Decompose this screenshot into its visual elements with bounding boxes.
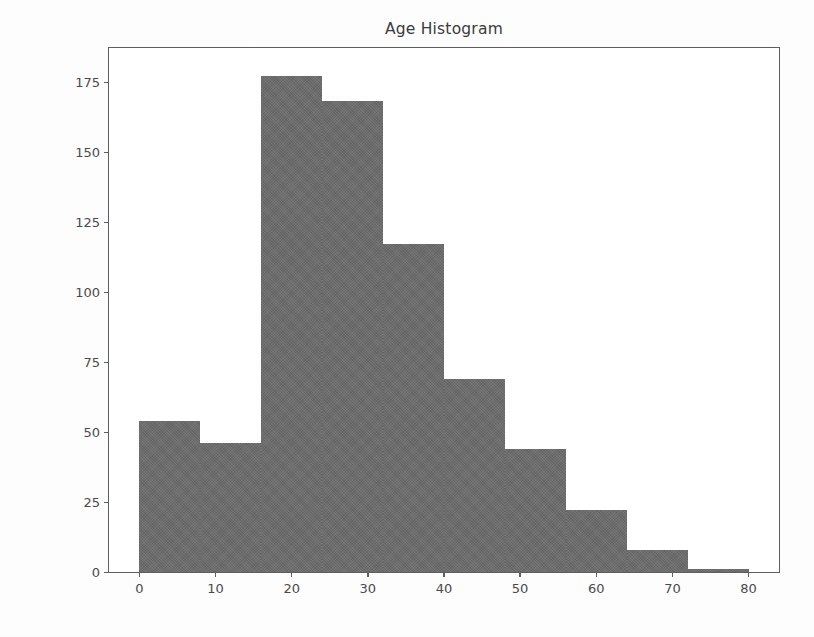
histogram-bar bbox=[444, 379, 505, 572]
y-tick-label: 50 bbox=[83, 424, 100, 439]
histogram-bar bbox=[200, 443, 261, 572]
figure-canvas: Age Histogram 0255075100125150175 010203… bbox=[0, 0, 814, 637]
x-tick-mark bbox=[215, 572, 216, 577]
histogram-bar bbox=[627, 550, 688, 572]
y-tick-label: 125 bbox=[75, 214, 100, 229]
x-tick-mark bbox=[519, 572, 520, 577]
x-tick-label: 50 bbox=[512, 581, 529, 596]
y-tick-label: 175 bbox=[75, 74, 100, 89]
y-tick-label: 0 bbox=[92, 565, 100, 580]
histogram-bar bbox=[322, 101, 383, 572]
x-tick-mark bbox=[443, 572, 444, 577]
histogram-bar bbox=[261, 76, 322, 572]
y-tick-label: 100 bbox=[75, 284, 100, 299]
plot-area: 0255075100125150175 01020304050607080 bbox=[108, 47, 780, 573]
x-tick-mark bbox=[291, 572, 292, 577]
histogram-bar bbox=[383, 244, 444, 572]
x-tick-label: 60 bbox=[588, 581, 605, 596]
chart-title: Age Histogram bbox=[108, 20, 780, 38]
y-tick-mark bbox=[104, 432, 109, 433]
y-tick-mark bbox=[104, 572, 109, 573]
histogram-bar bbox=[139, 421, 200, 572]
histogram-bar bbox=[688, 569, 749, 572]
y-tick-label: 150 bbox=[75, 144, 100, 159]
x-tick-mark bbox=[596, 572, 597, 577]
x-tick-mark bbox=[672, 572, 673, 577]
y-tick-mark bbox=[104, 222, 109, 223]
y-tick-mark bbox=[104, 82, 109, 83]
y-tick-mark bbox=[104, 152, 109, 153]
y-tick-label: 75 bbox=[83, 354, 100, 369]
x-tick-label: 20 bbox=[283, 581, 300, 596]
y-tick-mark bbox=[104, 502, 109, 503]
x-tick-label: 30 bbox=[360, 581, 377, 596]
x-tick-label: 0 bbox=[135, 581, 143, 596]
x-tick-label: 70 bbox=[664, 581, 681, 596]
histogram-bars bbox=[109, 48, 779, 572]
y-tick-label: 25 bbox=[83, 494, 100, 509]
x-tick-label: 40 bbox=[436, 581, 453, 596]
x-tick-label: 10 bbox=[207, 581, 224, 596]
x-tick-mark bbox=[139, 572, 140, 577]
y-tick-mark bbox=[104, 362, 109, 363]
x-tick-mark bbox=[367, 572, 368, 577]
histogram-bar bbox=[566, 510, 627, 572]
x-tick-mark bbox=[748, 572, 749, 577]
histogram-bar bbox=[505, 449, 566, 572]
y-tick-mark bbox=[104, 292, 109, 293]
x-tick-label: 80 bbox=[740, 581, 757, 596]
